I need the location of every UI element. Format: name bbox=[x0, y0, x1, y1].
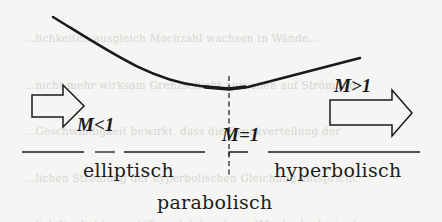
mach-greater-label: M>1 bbox=[334, 75, 371, 97]
mach-less-label: M<1 bbox=[77, 114, 114, 136]
parabolic-label: parabolisch bbox=[157, 191, 273, 213]
mach-equal-label: M=1 bbox=[222, 124, 259, 146]
hyperbolic-label: hyperbolisch bbox=[274, 159, 401, 181]
parabolic-bracket bbox=[229, 152, 248, 156]
mach-curve bbox=[53, 17, 360, 89]
elliptic-label: elliptisch bbox=[83, 159, 174, 181]
curve-minimum bbox=[205, 87, 245, 89]
regime-diagram: ...lichkeiten ausgleich Machzahl wachsen… bbox=[0, 0, 442, 222]
